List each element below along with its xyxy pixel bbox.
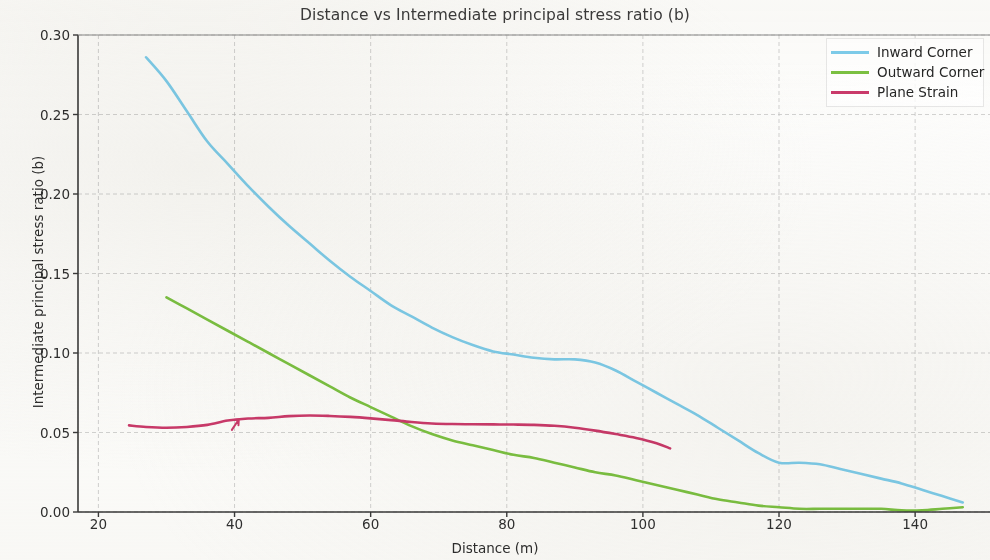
- x-tick-label: 20: [90, 516, 107, 532]
- legend-item-inward-corner: Inward Corner: [831, 42, 979, 62]
- x-tick-label: 100: [630, 516, 656, 532]
- legend-item-plane-strain: Plane Strain: [831, 82, 979, 102]
- x-tick-label: 140: [902, 516, 928, 532]
- legend-swatch-inward-corner: [831, 51, 869, 54]
- x-tick-label: 60: [362, 516, 379, 532]
- chart-legend: Inward Corner Outward Corner Plane Strai…: [826, 38, 984, 107]
- legend-swatch-plane-strain: [831, 91, 869, 94]
- x-axis-label: Distance (m): [0, 540, 990, 556]
- x-tick-label: 40: [226, 516, 243, 532]
- legend-label-outward-corner: Outward Corner: [877, 64, 984, 80]
- y-tick-label: 0.00: [12, 504, 70, 520]
- y-tick-label: 0.30: [12, 27, 70, 43]
- x-tick-label: 120: [766, 516, 792, 532]
- y-axis-label: Intermediate principal stress ratio (b): [30, 132, 46, 432]
- y-tick-label: 0.25: [12, 107, 70, 123]
- legend-label-inward-corner: Inward Corner: [877, 44, 972, 60]
- x-tick-label: 80: [498, 516, 515, 532]
- chart-figure: Distance vs Intermediate principal stres…: [0, 0, 990, 560]
- legend-swatch-outward-corner: [831, 71, 869, 74]
- legend-label-plane-strain: Plane Strain: [877, 84, 958, 100]
- legend-item-outward-corner: Outward Corner: [831, 62, 979, 82]
